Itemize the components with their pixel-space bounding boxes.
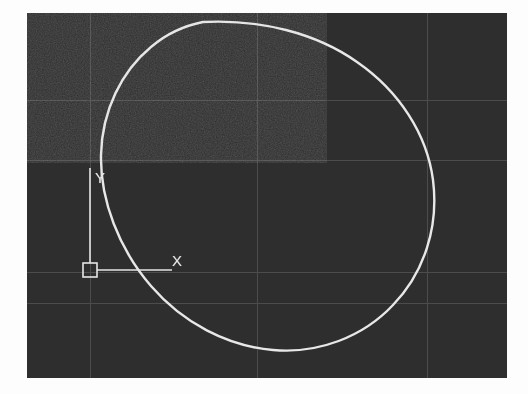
ucs-x-label: X [172,253,182,268]
ucs-y-label: Y [95,170,105,185]
cad-viewport[interactable]: X Y [27,13,507,378]
circle-icon[interactable] [101,22,434,351]
cad-screenshot-root: X Y [0,0,528,394]
ucs-origin-box-icon [83,263,97,277]
drawing-canvas[interactable] [27,13,507,378]
